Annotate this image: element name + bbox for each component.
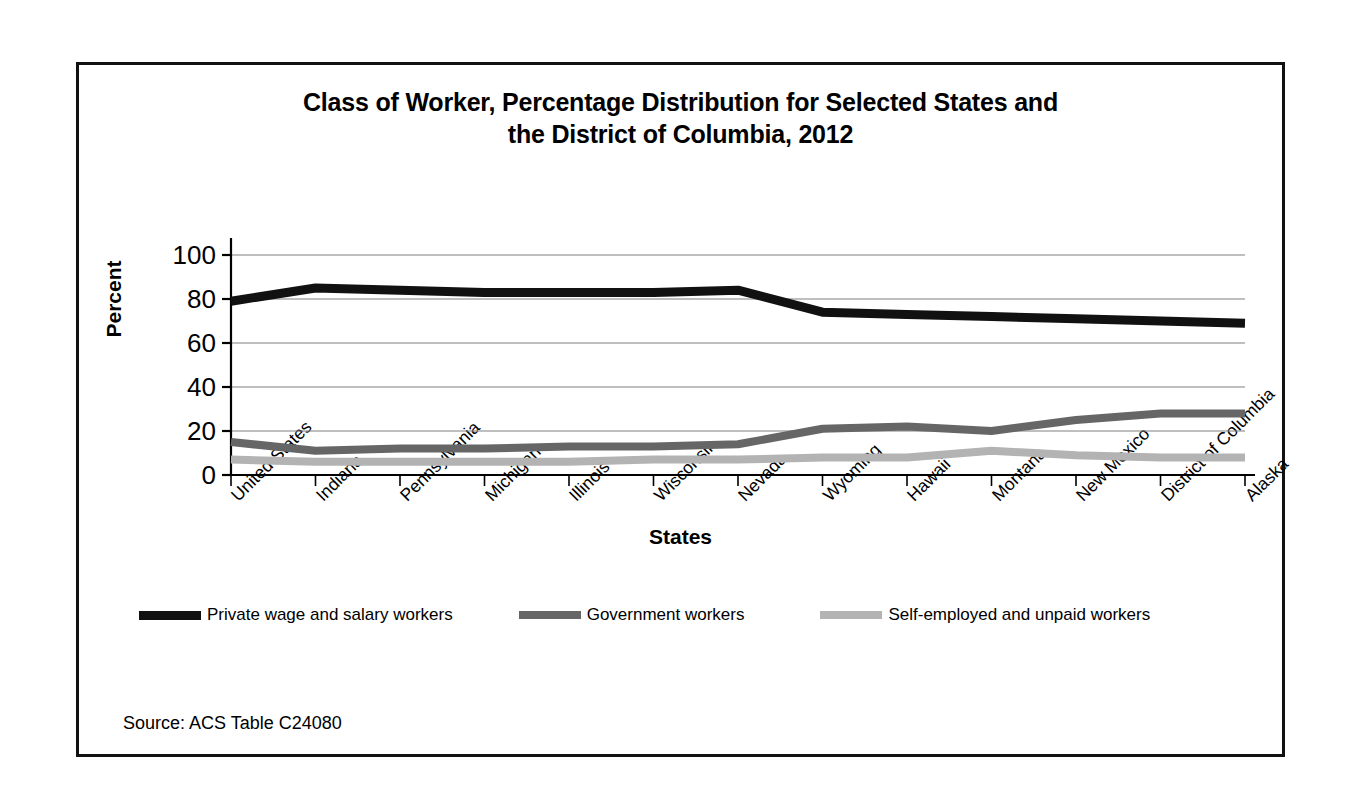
legend-label-self-employed: Self-employed and unpaid workers <box>888 605 1150 625</box>
legend-entry-private[interactable]: Private wage and salary workers <box>139 605 453 625</box>
gridlines <box>231 255 1245 431</box>
series-lines <box>231 288 1245 462</box>
chart-frame: Class of Worker, Percentage Distribution… <box>76 62 1285 757</box>
plot-svg <box>79 125 1282 545</box>
legend-swatch-private <box>139 611 201 620</box>
source-note: Source: ACS Table C24080 <box>123 713 342 734</box>
legend-entry-self-employed[interactable]: Self-employed and unpaid workers <box>820 605 1150 625</box>
series-line-1 <box>231 413 1245 450</box>
legend-swatch-self-employed <box>820 611 882 619</box>
legend-entry-government[interactable]: Government workers <box>519 605 745 625</box>
legend-label-government: Government workers <box>587 605 745 625</box>
legend-swatch-government <box>519 611 581 619</box>
series-line-0 <box>231 288 1245 323</box>
legend-label-private: Private wage and salary workers <box>207 605 453 625</box>
plot-area: Percent States 020406080100 United State… <box>79 65 1282 754</box>
chart-legend: Private wage and salary workers Governme… <box>139 605 1229 625</box>
